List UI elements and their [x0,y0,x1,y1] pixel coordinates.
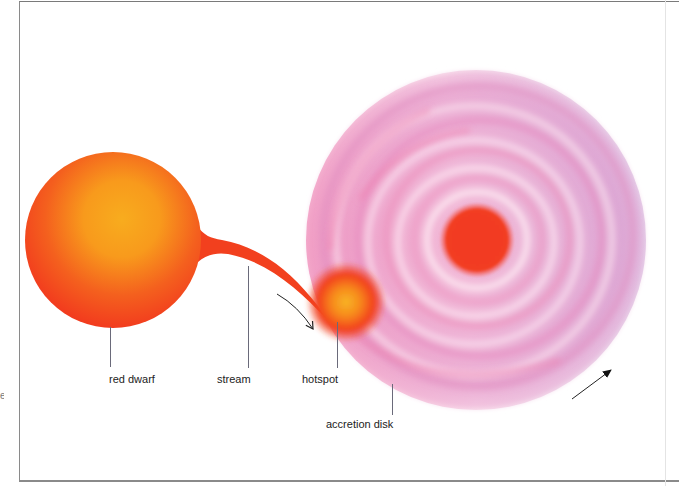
label-stream: stream [217,373,251,385]
disk-core [439,202,515,278]
hotspot [306,262,386,342]
label-hotspot: hotspot [302,373,338,385]
label-accretion-disk: accretion disk [326,418,393,430]
accretion-disk [304,68,648,412]
label-red-dwarf: red dwarf [109,373,155,385]
red-dwarf [25,152,201,328]
red-dwarf-group [25,152,326,328]
